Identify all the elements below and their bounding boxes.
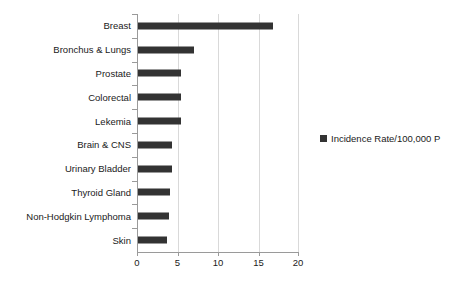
- bar-track: [138, 118, 181, 125]
- bar-skin: [138, 237, 167, 244]
- y-axis-tick: [132, 38, 137, 39]
- bar-row: Prostate: [0, 62, 468, 86]
- y-axis-tick: [132, 228, 137, 229]
- x-tick-label: 15: [253, 257, 264, 268]
- bar-breast: [138, 22, 273, 29]
- category-label: Breast: [0, 20, 136, 31]
- category-label: Thyroid Gland: [0, 187, 136, 198]
- category-label: Skin: [0, 235, 136, 246]
- y-axis-tick: [132, 133, 137, 134]
- bar-track: [138, 213, 169, 220]
- x-tick-mark: [137, 252, 138, 256]
- bar-urinary-bladder: [138, 165, 172, 172]
- category-label: Bronchus & Lungs: [0, 44, 136, 55]
- bar-non-hodgkin-lymphoma: [138, 213, 169, 220]
- bar-row: Bronchus & Lungs: [0, 38, 468, 62]
- bar-track: [138, 94, 181, 101]
- bar-track: [138, 46, 194, 53]
- bar-row: Non-Hodgkin Lymphoma: [0, 204, 468, 228]
- x-tick-label: 10: [213, 257, 224, 268]
- bar-row: Lekemia: [0, 109, 468, 133]
- y-axis-tick: [132, 181, 137, 182]
- bar-lekemia: [138, 118, 181, 125]
- bar-thyroid-gland: [138, 189, 170, 196]
- x-axis-ticks: 0 5 10 15 20: [137, 252, 299, 272]
- y-axis-tick: [132, 62, 137, 63]
- bar-track: [138, 189, 170, 196]
- x-tick-mark: [178, 252, 179, 256]
- x-tick-label: 20: [293, 257, 304, 268]
- bar-track: [138, 165, 172, 172]
- y-axis-tick: [132, 14, 137, 15]
- bar-row: Thyroid Gland: [0, 181, 468, 205]
- legend-swatch-icon: [320, 135, 327, 142]
- bar-chart: Breast Bronchus & Lungs Prostate Colorec…: [0, 0, 468, 283]
- bar-track: [138, 22, 273, 29]
- x-tick-label: 5: [175, 257, 180, 268]
- bar-track: [138, 141, 172, 148]
- bar-colorectal: [138, 94, 181, 101]
- bar-brain-cns: [138, 141, 172, 148]
- bar-row: Breast: [0, 14, 468, 38]
- category-label: Colorectal: [0, 92, 136, 103]
- category-label: Prostate: [0, 68, 136, 79]
- x-tick-mark: [298, 252, 299, 256]
- x-tick-label: 0: [134, 257, 139, 268]
- bar-bronchus-lungs: [138, 46, 194, 53]
- y-axis-tick: [132, 85, 137, 86]
- y-axis-tick: [132, 204, 137, 205]
- x-tick-mark: [259, 252, 260, 256]
- bar-row: Urinary Bladder: [0, 157, 468, 181]
- bar-row: Skin: [0, 228, 468, 252]
- bar-row: Colorectal: [0, 85, 468, 109]
- chart-legend: Incidence Rate/100,000 P: [320, 133, 440, 144]
- y-axis-tick: [132, 157, 137, 158]
- bar-track: [138, 70, 181, 77]
- bar-prostate: [138, 70, 181, 77]
- category-label: Lekemia: [0, 116, 136, 127]
- category-label: Non-Hodgkin Lymphoma: [0, 211, 136, 222]
- category-label: Brain & CNS: [0, 139, 136, 150]
- legend-entry-label: Incidence Rate/100,000 P: [331, 133, 440, 144]
- y-axis-tick: [132, 109, 137, 110]
- x-tick-mark: [218, 252, 219, 256]
- bar-track: [138, 237, 167, 244]
- category-label: Urinary Bladder: [0, 163, 136, 174]
